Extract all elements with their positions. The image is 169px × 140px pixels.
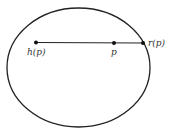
segment-h-to-r [36,43,143,44]
boundary-ellipse [7,8,150,127]
point-r-of-p [141,41,145,45]
label-p: p [111,47,117,57]
label-h-of-p: h(p) [27,47,46,57]
diagram-canvas: h(p) p r(p) [0,0,169,140]
point-p [112,41,116,45]
label-r-of-p: r(p) [148,38,166,48]
point-h-of-p [34,41,38,45]
